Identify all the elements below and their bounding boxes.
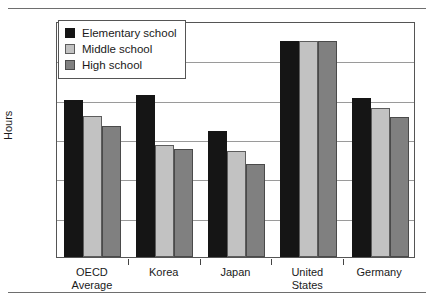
bar (227, 151, 246, 257)
bar (64, 100, 83, 257)
bar (208, 131, 227, 257)
legend-item-label: Elementary school (82, 27, 177, 39)
bar (299, 41, 318, 257)
y-axis-title: Hours (2, 111, 14, 140)
bar (318, 41, 337, 257)
chart-legend: Elementary schoolMiddle schoolHigh schoo… (58, 20, 186, 79)
x-axis-group-separator (200, 259, 201, 265)
legend-item-label: High school (82, 59, 142, 71)
legend-swatch-icon (65, 44, 75, 54)
legend-swatch-icon (65, 60, 75, 70)
bar (371, 108, 390, 257)
bar (352, 98, 371, 257)
bar (174, 149, 193, 257)
legend-item-label: Middle school (82, 43, 152, 55)
legend-swatch-icon (65, 28, 75, 38)
x-axis-category-label: Japan (200, 266, 272, 279)
legend-item: Elementary school (65, 25, 177, 41)
x-axis-category-label: United States (271, 266, 343, 292)
x-axis-group-separator (343, 259, 344, 265)
x-axis-group-separator (128, 259, 129, 265)
bar (155, 145, 174, 257)
legend-item: High school (65, 57, 177, 73)
bar (280, 41, 299, 257)
bar-chart-figure: Hours 020040060080010001200 OECD Average… (0, 0, 430, 298)
x-axis-category-label: OECD Average (56, 266, 128, 292)
x-axis-category-label: Germany (343, 266, 415, 279)
bar (136, 95, 155, 257)
legend-item: Middle school (65, 41, 177, 57)
bar (390, 117, 409, 257)
bar (83, 116, 102, 257)
x-axis-category-label: Korea (128, 266, 200, 279)
x-axis-group-separator (271, 259, 272, 265)
bar (246, 164, 265, 257)
bar (102, 126, 121, 257)
